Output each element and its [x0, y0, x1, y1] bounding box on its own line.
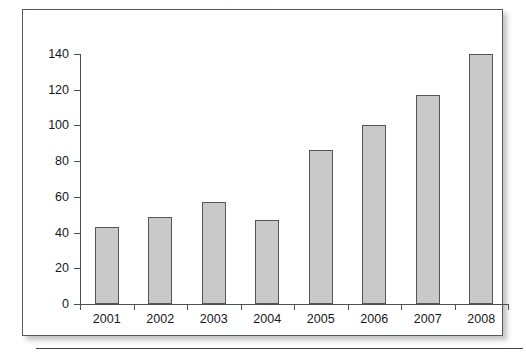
- bar: [255, 220, 279, 304]
- x-axis-tick-label: 2005: [294, 312, 348, 326]
- x-axis-tick-label: 2004: [241, 312, 295, 326]
- x-axis-tick: [241, 304, 242, 310]
- y-axis-tick-label: 140: [48, 47, 69, 61]
- bar: [309, 150, 333, 304]
- bar: [416, 95, 440, 304]
- bar: [202, 202, 226, 304]
- y-axis-tick: 80: [74, 161, 80, 162]
- x-axis-tick-label: 2007: [401, 312, 455, 326]
- bar: [148, 217, 172, 305]
- y-axis-line: [80, 54, 81, 304]
- x-axis-tick-label: 2001: [80, 312, 134, 326]
- x-axis-tick-label: 2008: [455, 312, 509, 326]
- x-axis-tick: [508, 304, 509, 310]
- x-axis-tick: [294, 304, 295, 310]
- x-axis-tick: [348, 304, 349, 310]
- y-axis-tick: 40: [74, 233, 80, 234]
- bottom-divider-rule: [36, 348, 523, 349]
- bar: [469, 54, 493, 304]
- x-axis-tick: [455, 304, 456, 310]
- x-axis-tick-label: 2006: [348, 312, 402, 326]
- y-axis-tick-label: 0: [62, 297, 69, 311]
- scan-top-text-artifact: · · ·· · ·: [230, 0, 390, 6]
- x-axis-tick: [80, 304, 81, 310]
- x-axis-tick: [187, 304, 188, 310]
- y-axis-tick: 120: [74, 90, 80, 91]
- y-axis-tick-label: 60: [55, 190, 69, 204]
- y-axis-tick: 100: [74, 125, 80, 126]
- y-axis-tick-label: 40: [55, 226, 69, 240]
- x-axis-tick-label: 2002: [134, 312, 188, 326]
- y-axis-tick-label: 100: [48, 118, 69, 132]
- bar-chart-plot-area: 020406080100120140 200120022003200420052…: [80, 54, 508, 304]
- y-axis-tick-label: 20: [55, 261, 69, 275]
- figure-frame: 020406080100120140 200120022003200420052…: [22, 9, 503, 336]
- x-axis-tick: [401, 304, 402, 310]
- y-axis-tick: 140: [74, 54, 80, 55]
- x-axis-tick-label: 2003: [187, 312, 241, 326]
- y-axis-tick: 20: [74, 268, 80, 269]
- bar: [362, 125, 386, 304]
- y-axis-tick-label: 80: [55, 154, 69, 168]
- y-axis-tick-label: 120: [48, 83, 69, 97]
- bar: [95, 227, 119, 304]
- x-axis-tick: [134, 304, 135, 310]
- y-axis-tick: 60: [74, 197, 80, 198]
